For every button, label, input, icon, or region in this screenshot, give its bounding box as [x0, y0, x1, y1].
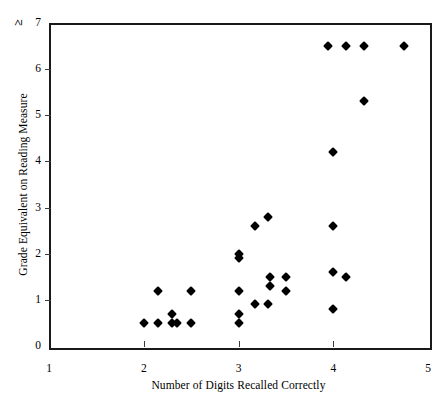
x-tick-mark: [333, 341, 334, 347]
x-tick-label: 5: [416, 363, 440, 374]
scatter-plot-figure: ≥ Grade Equivalent on Reading Measure 01…: [0, 0, 446, 411]
x-tick-label: 3: [227, 363, 251, 374]
y-tick-mark: [45, 69, 51, 70]
y-tick-label: 0: [15, 340, 41, 351]
y-tick-mark: [45, 161, 51, 162]
y-tick-mark: [45, 300, 51, 301]
y-tick-label: 5: [15, 109, 41, 120]
y-tick-mark: [45, 254, 51, 255]
x-axis-title: Number of Digits Recalled Correctly: [49, 379, 428, 391]
x-tick-label: 2: [132, 363, 156, 374]
y-tick-label: 1: [15, 294, 41, 305]
y-tick-label: 7: [15, 17, 41, 28]
x-tick-label: 1: [37, 363, 61, 374]
y-tick-label: 2: [15, 248, 41, 259]
y-tick-mark: [45, 208, 51, 209]
plot-area: [49, 23, 432, 350]
y-tick-label: 4: [15, 155, 41, 166]
y-tick-label: 3: [15, 202, 41, 213]
y-tick-label: 6: [15, 63, 41, 74]
x-tick-mark: [144, 341, 145, 347]
y-tick-mark: [45, 115, 51, 116]
x-tick-mark: [239, 341, 240, 347]
x-tick-label: 4: [321, 363, 345, 374]
